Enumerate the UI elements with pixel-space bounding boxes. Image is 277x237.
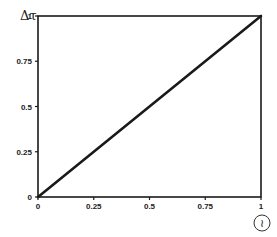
axis-ticks: 00.250.50.75100.250.50.751: [16, 12, 263, 211]
y-tick-label: 0.25: [16, 148, 32, 157]
y-tick-label: 0.5: [21, 103, 33, 112]
y-axis-title: Δτ: [20, 8, 37, 23]
y-tick-label: 0.75: [16, 57, 32, 66]
x-tick-label: 0.25: [86, 202, 102, 211]
chart: 00.250.50.75100.250.50.751 Δτ ≀: [0, 0, 277, 237]
x-tick-label: 0.5: [144, 202, 156, 211]
x-tick-label: 1: [259, 202, 264, 211]
x-tick-label: 0: [36, 202, 41, 211]
x-axis-title: ≀: [254, 215, 270, 231]
series-line-identity: [38, 16, 261, 197]
y-tick-label: 0: [28, 193, 33, 202]
x-tick-label: 0.75: [197, 202, 213, 211]
x-axis-symbol: ≀: [260, 217, 264, 230]
data-series: [38, 16, 261, 197]
